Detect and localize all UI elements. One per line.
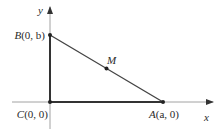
y-axis-label: y: [37, 4, 43, 16]
label-c: C(0, 0): [17, 108, 49, 121]
point-a: [161, 100, 165, 104]
label-m: M: [106, 54, 117, 66]
x-axis-label: x: [203, 111, 209, 123]
label-a: A(a, 0): [148, 108, 179, 121]
triangle-diagram: y x B(0, b) C(0, 0) A(a, 0) M: [0, 0, 223, 134]
label-b: B(0, b): [14, 29, 45, 42]
point-c: [48, 100, 52, 104]
point-m: [105, 67, 109, 71]
point-b: [48, 33, 52, 37]
